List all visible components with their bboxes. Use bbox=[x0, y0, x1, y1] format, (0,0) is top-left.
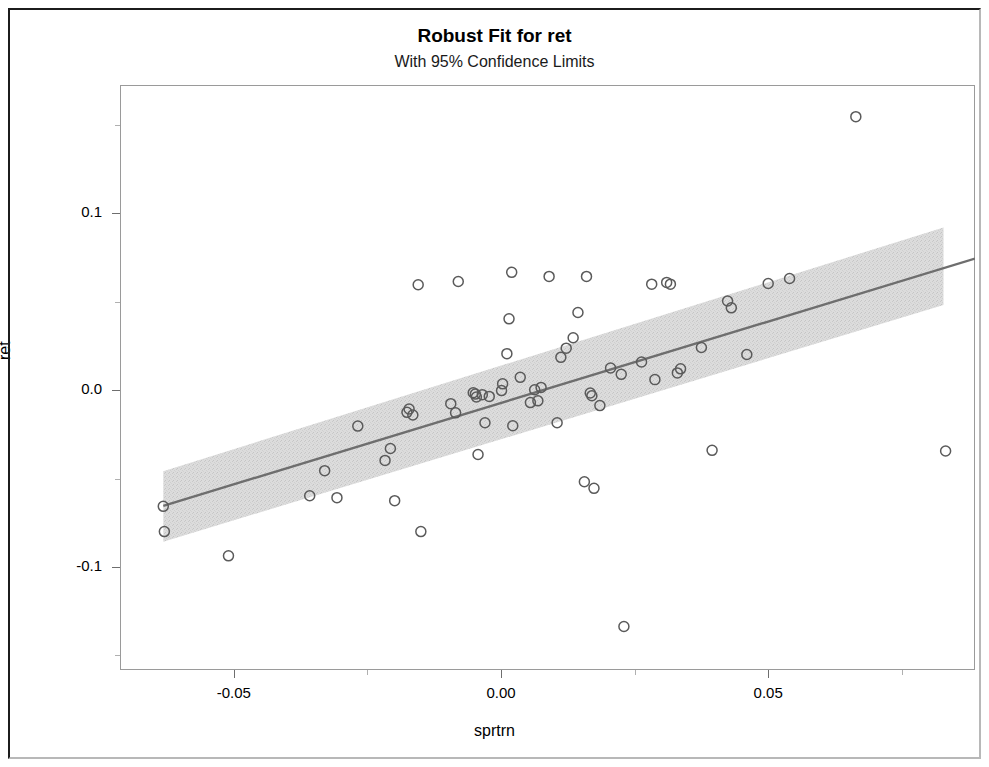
x-axis-label: sprtrn bbox=[0, 722, 989, 740]
chart-title: Robust Fit for ret bbox=[0, 25, 989, 47]
chart-canvas: Robust Fit for ret With 95% Confidence L… bbox=[0, 0, 989, 767]
y-axis-label: ret bbox=[0, 341, 14, 360]
data-point bbox=[707, 445, 717, 455]
data-point bbox=[416, 527, 426, 537]
x-tick-label: 0.05 bbox=[728, 684, 808, 701]
chart-subtitle: With 95% Confidence Limits bbox=[0, 53, 989, 71]
y-minor-tick-mark bbox=[115, 655, 120, 656]
x-minor-tick-mark bbox=[367, 670, 368, 675]
data-point bbox=[390, 496, 400, 506]
data-point bbox=[589, 483, 599, 493]
y-minor-tick-mark bbox=[115, 479, 120, 480]
x-tick-mark bbox=[234, 670, 235, 678]
y-tick-label: 0.0 bbox=[42, 380, 102, 397]
data-point bbox=[619, 622, 629, 632]
data-point bbox=[568, 333, 578, 343]
data-point bbox=[573, 307, 583, 317]
data-point bbox=[579, 477, 589, 487]
data-point bbox=[582, 271, 592, 281]
y-minor-tick-mark bbox=[115, 302, 120, 303]
data-point bbox=[473, 450, 483, 460]
data-point bbox=[453, 277, 463, 287]
y-tick-mark bbox=[112, 567, 120, 568]
data-point bbox=[647, 279, 657, 289]
x-minor-tick-mark bbox=[902, 670, 903, 675]
y-tick-mark bbox=[112, 390, 120, 391]
x-tick-label: 0.00 bbox=[461, 684, 541, 701]
x-minor-tick-mark bbox=[635, 670, 636, 675]
data-point bbox=[413, 280, 423, 290]
data-point bbox=[851, 112, 861, 122]
data-point bbox=[665, 279, 675, 289]
x-tick-mark bbox=[768, 670, 769, 678]
x-tick-label: -0.05 bbox=[194, 684, 274, 701]
chart-screenshot: Robust Fit for ret With 95% Confidence L… bbox=[0, 0, 989, 767]
data-point bbox=[332, 493, 342, 503]
data-point bbox=[502, 349, 512, 359]
y-tick-label: -0.1 bbox=[42, 557, 102, 574]
x-tick-mark bbox=[501, 670, 502, 678]
data-point bbox=[504, 314, 514, 324]
y-tick-label: 0.1 bbox=[42, 203, 102, 220]
y-minor-tick-mark bbox=[115, 125, 120, 126]
data-point bbox=[941, 446, 951, 456]
data-point bbox=[544, 271, 554, 281]
data-point bbox=[507, 267, 517, 277]
y-tick-mark bbox=[112, 213, 120, 214]
plot-graphics bbox=[120, 85, 975, 670]
fit-line-segment bbox=[163, 259, 975, 506]
data-point bbox=[223, 551, 233, 561]
robust-fit-line bbox=[163, 259, 975, 506]
